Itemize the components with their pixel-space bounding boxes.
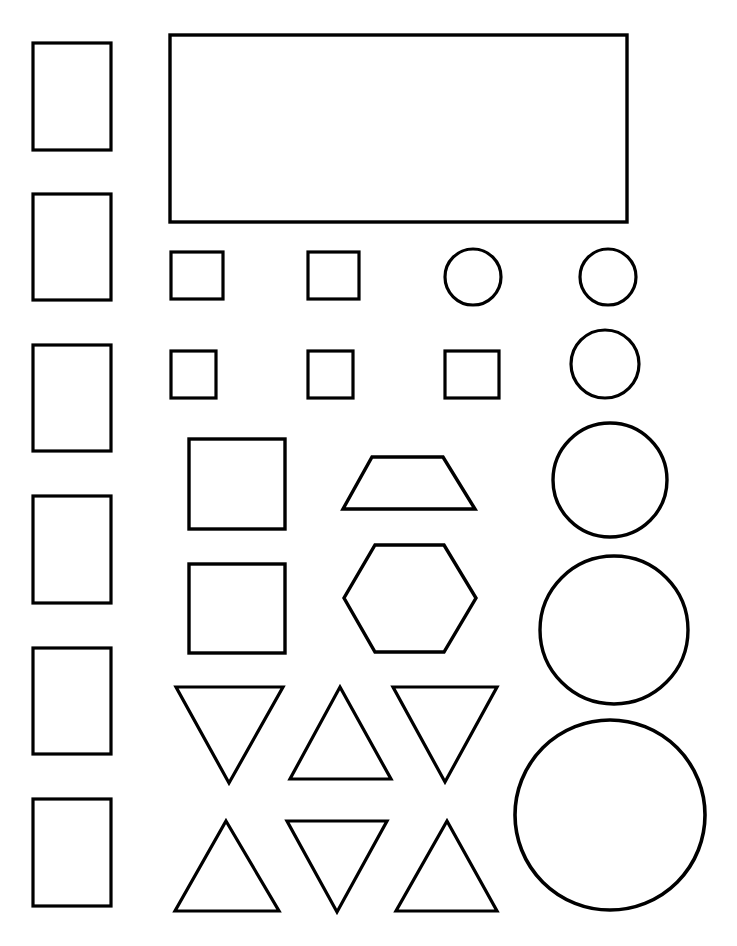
shapes-canvas xyxy=(0,0,737,946)
shapes-page xyxy=(0,0,737,946)
